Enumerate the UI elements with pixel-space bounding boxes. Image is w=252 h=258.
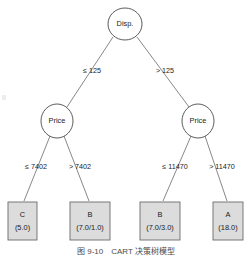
leaf-node-b1[interactable]: B (7.0/1.0) xyxy=(70,202,110,240)
edge-label-price-left-high: > 7402 xyxy=(69,162,91,171)
leaf-b2-counts: (7.0/3.0) xyxy=(146,223,174,232)
figure-caption: 图 9-10 CART 决策树模型 xyxy=(0,246,252,257)
leaf-b1-class-label: B xyxy=(88,210,93,219)
leaf-a-class-label: A xyxy=(226,210,231,219)
node-price-left[interactable]: Price xyxy=(41,104,73,138)
decision-tree-canvas: ≤ 125 > 125 ≤ 7402 > 7402 ≤ 11470 > 1147… xyxy=(0,0,252,258)
edge-label-root-right: > 125 xyxy=(156,66,174,75)
leaf-node-c[interactable]: C (5.0) xyxy=(8,202,37,240)
root-node-label: Disp. xyxy=(117,19,134,28)
leaf-a-counts: (18.0) xyxy=(218,223,237,232)
edge-label-root-left: ≤ 125 xyxy=(83,66,101,75)
edge-label-price-right-high: > 11470 xyxy=(209,162,235,171)
decision-tree-figure: ≤ 125 > 125 ≤ 7402 > 7402 ≤ 11470 > 1147… xyxy=(0,0,252,258)
edge-label-price-right-low: ≤ 11470 xyxy=(162,162,187,171)
leaf-b1-box xyxy=(70,202,110,240)
leaf-c-class-label: C xyxy=(20,210,26,219)
leaf-c-box xyxy=(8,202,37,240)
price-right-node-label: Price xyxy=(190,116,207,125)
node-root-disp[interactable]: Disp. xyxy=(108,8,142,40)
leaf-node-b2[interactable]: B (7.0/3.0) xyxy=(140,202,180,240)
leaf-node-a[interactable]: A (18.0) xyxy=(213,202,243,240)
leaf-b1-counts: (7.0/1.0) xyxy=(76,223,104,232)
node-price-right[interactable]: Price xyxy=(182,104,214,138)
price-left-node-label: Price xyxy=(49,116,66,125)
leaf-b2-box xyxy=(140,202,180,240)
edge-label-price-left-low: ≤ 7402 xyxy=(25,162,47,171)
leaf-c-counts: (5.0) xyxy=(15,223,30,232)
leaf-a-box xyxy=(213,202,243,240)
leaf-b2-class-label: B xyxy=(158,210,163,219)
